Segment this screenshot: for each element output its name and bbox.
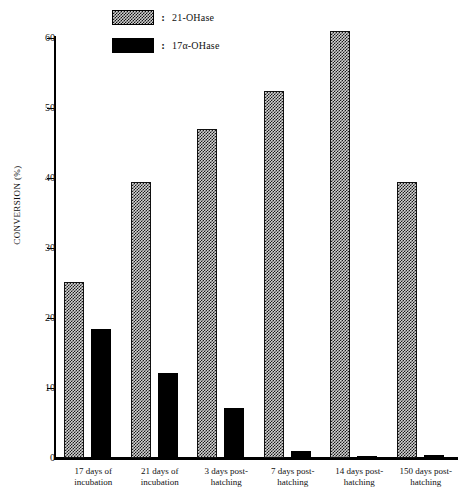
bar-solid — [91, 329, 111, 459]
bar-hatched — [397, 182, 417, 459]
bar-solid — [158, 373, 178, 458]
y-tick-label: 0 — [31, 453, 55, 463]
bar-group — [131, 20, 198, 458]
bar-group — [264, 20, 331, 458]
bar-solid — [357, 456, 377, 458]
bar-group — [197, 20, 264, 458]
y-tick-label: 10 — [31, 383, 55, 393]
plot-area — [56, 20, 458, 458]
bar-solid — [224, 408, 244, 458]
bar-hatched — [264, 91, 284, 459]
y-tick-label: 20 — [31, 313, 55, 323]
bar-group — [64, 20, 131, 458]
bar-hatched — [330, 31, 350, 458]
y-tick-label: 60 — [31, 33, 55, 43]
bar-group — [330, 20, 397, 458]
bar-hatched — [64, 282, 84, 458]
bar-solid — [291, 451, 311, 458]
bar-hatched — [197, 129, 217, 458]
y-tick-label: 30 — [31, 243, 55, 253]
y-tick-label: 40 — [31, 173, 55, 183]
y-tick-label: 50 — [31, 103, 55, 113]
bar-group — [397, 20, 464, 458]
bar-hatched — [131, 182, 151, 459]
y-axis-title: CONVERSION (%) — [12, 150, 22, 260]
bar-solid — [424, 455, 444, 458]
category-label: 150 days post- hatching — [387, 466, 466, 488]
bar-chart-figure: : 21-OHase : 17α-OHase CONVERSION (%) 01… — [0, 0, 467, 493]
